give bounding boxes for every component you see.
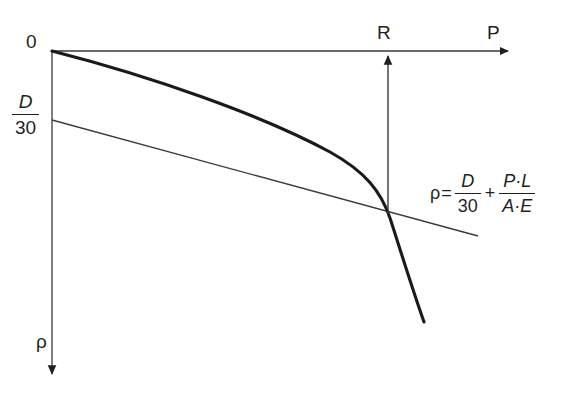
equation-term-2: P·L A·E — [499, 172, 535, 215]
term-1-denominator: 30 — [455, 197, 481, 215]
engineering-diagram: 0 P R ρ D 30 ρ = D 30 + P·L A·E — [0, 0, 563, 406]
equation-equals-sign: = — [441, 183, 455, 204]
term-2-numerator: P·L — [500, 172, 534, 190]
equation-rho: ρ = D 30 + P·L A·E — [430, 172, 535, 215]
deformation-curve — [52, 51, 424, 322]
equation-term-1: D 30 — [455, 172, 481, 215]
term-2-denominator: A·E — [499, 197, 535, 215]
reaction-arrow-label: R — [377, 23, 391, 42]
fraction-numerator: D — [16, 92, 36, 111]
fraction-denominator: 30 — [12, 118, 39, 137]
origin-label: 0 — [26, 32, 37, 51]
term-1-numerator: D — [458, 172, 477, 190]
equation-lhs: ρ — [430, 183, 441, 204]
p-axis-label: P — [487, 23, 500, 42]
equation-plus-sign: + — [481, 183, 500, 204]
fraction-bar — [12, 114, 39, 116]
rho-axis-label: ρ — [36, 332, 47, 351]
term-2-fraction-bar — [499, 193, 535, 195]
elastic-line — [52, 120, 478, 236]
axis-tick-label-d-over-30: D 30 — [12, 92, 39, 137]
term-1-fraction-bar — [455, 193, 481, 195]
fraction-d-over-30: D 30 — [12, 92, 39, 137]
